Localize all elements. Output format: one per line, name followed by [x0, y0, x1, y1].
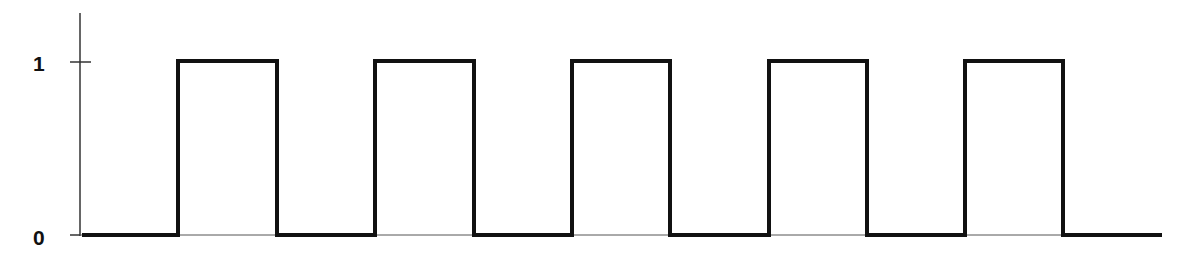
square-wave-diagram: 1 0 [0, 0, 1194, 260]
square-wave-signal [82, 61, 1162, 235]
waveform-plot [0, 0, 1194, 260]
